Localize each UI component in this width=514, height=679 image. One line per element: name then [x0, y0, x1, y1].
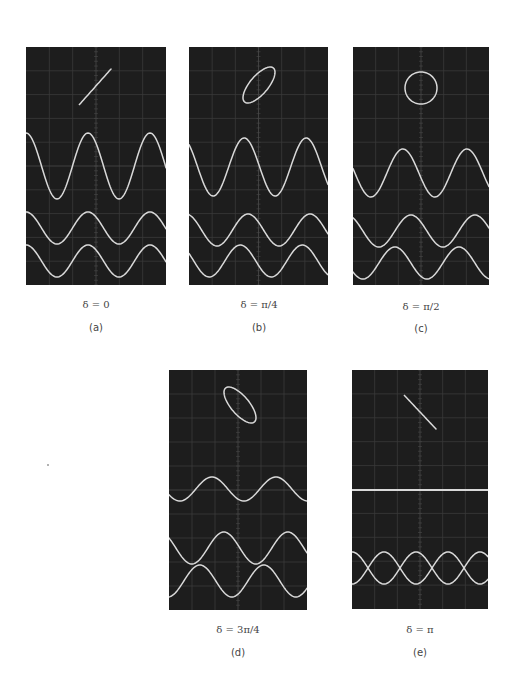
- panel-letter-d: (d): [168, 647, 308, 658]
- delta-label-d: δ = 3π/4: [168, 624, 308, 635]
- scope-screen: [189, 47, 328, 285]
- scope-screen: [352, 370, 488, 609]
- panel-letter-b: (b): [189, 322, 329, 333]
- scope-panel-c: [353, 47, 489, 285]
- scope-panel-b: [189, 47, 328, 285]
- stray-mark: [47, 464, 49, 466]
- scope-screen: [169, 370, 307, 610]
- graticule: [169, 370, 307, 610]
- scope-panel-d: [169, 370, 307, 610]
- delta-label-b: δ = π/4: [189, 299, 329, 310]
- scope-panel-e: [352, 370, 488, 609]
- delta-label-e: δ = π: [350, 624, 490, 635]
- panel-letter-a: (a): [26, 322, 166, 333]
- panel-letter-e: (e): [350, 647, 490, 658]
- scope-screen: [26, 47, 166, 285]
- scope-panel-a: [26, 47, 166, 285]
- delta-label-c: δ = π/2: [351, 301, 491, 312]
- delta-label-a: δ = 0: [26, 299, 166, 310]
- panel-letter-c: (c): [351, 323, 491, 334]
- graticule: [353, 47, 489, 285]
- scope-screen: [353, 47, 489, 285]
- graticule: [189, 47, 328, 285]
